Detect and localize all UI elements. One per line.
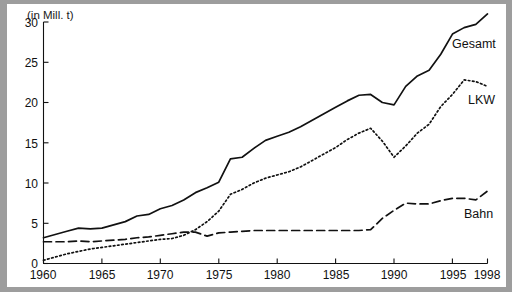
chart-figure: (in Mill. t) 30 25 20 15 10 5 0 1960 196… xyxy=(0,0,512,292)
axes xyxy=(43,22,488,264)
line-series-lkw xyxy=(44,80,488,260)
line-series-bahn xyxy=(44,191,488,242)
series-group xyxy=(44,14,488,260)
y-tick-marks xyxy=(44,22,49,264)
plot-canvas xyxy=(0,0,512,292)
x-tick-marks xyxy=(44,259,488,264)
